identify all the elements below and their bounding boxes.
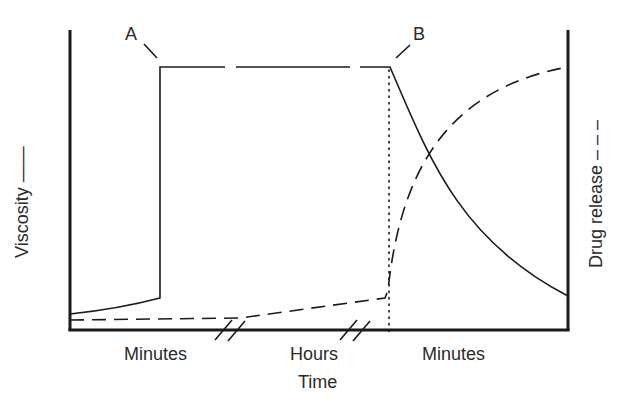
leader-a (144, 44, 157, 58)
annotation-a: A (125, 24, 137, 45)
x-axis-title: Time (298, 372, 337, 393)
annotation-b: B (413, 24, 425, 45)
viscosity-curve (70, 67, 568, 314)
drug-release-curve (70, 67, 568, 320)
x-segment-minutes-2: Minutes (422, 344, 485, 365)
x-segment-hours: Hours (290, 344, 338, 365)
y-axis-right-title: Drug release – – – (586, 120, 607, 268)
x-segment-minutes-1: Minutes (124, 344, 187, 365)
axes (69, 30, 570, 331)
leader-b (396, 45, 410, 58)
y-axis-left-title: Viscosity —— (12, 146, 33, 258)
